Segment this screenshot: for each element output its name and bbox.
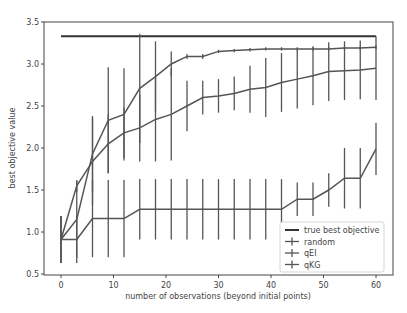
legend: true best objectiverandomqEIqKG (280, 222, 384, 272)
x-tick-label: 30 (213, 281, 223, 290)
x-tick-label: 50 (318, 281, 328, 290)
legend-label: random (304, 238, 335, 247)
chart: 0102030405060 0.51.01.52.02.53.03.5 numb… (0, 0, 407, 313)
legend-label: true best objective (304, 226, 379, 235)
y-tick-label: 1.5 (26, 186, 39, 195)
x-tick-label: 40 (266, 281, 276, 290)
x-tick-label: 10 (108, 281, 118, 290)
x-tick-label: 20 (161, 281, 171, 290)
y-axis: 0.51.01.52.02.53.03.5 (26, 18, 44, 279)
x-tick-label: 60 (371, 281, 381, 290)
y-axis-label: best objective value (8, 108, 17, 189)
y-tick-label: 2.0 (26, 144, 39, 153)
x-axis-label: number of observations (beyond initial p… (125, 292, 311, 301)
legend-label: qKG (304, 261, 321, 270)
y-tick-label: 3.0 (26, 60, 39, 69)
x-tick-label: 0 (58, 281, 63, 290)
y-tick-label: 3.5 (26, 18, 39, 27)
y-tick-label: 1.0 (26, 228, 39, 237)
x-axis: 0102030405060 (58, 275, 381, 290)
y-tick-label: 0.5 (26, 270, 39, 279)
y-tick-label: 2.5 (26, 102, 39, 111)
legend-label: qEI (304, 249, 317, 258)
